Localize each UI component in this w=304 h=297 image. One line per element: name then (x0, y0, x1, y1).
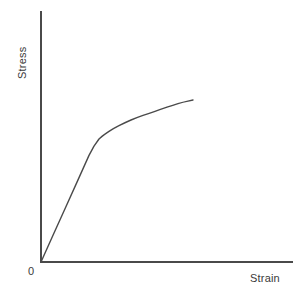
origin-label: 0 (28, 266, 34, 277)
series-group (41, 100, 193, 262)
y-axis-label-text: Stress (17, 47, 28, 79)
stress-strain-curve (41, 100, 193, 262)
y-axis-label: Stress (14, 32, 28, 80)
stress-strain-chart: Stress Strain 0 (0, 0, 304, 297)
axes-group (41, 12, 292, 262)
x-axis-label: Strain (250, 273, 280, 284)
plot-canvas (0, 0, 304, 297)
